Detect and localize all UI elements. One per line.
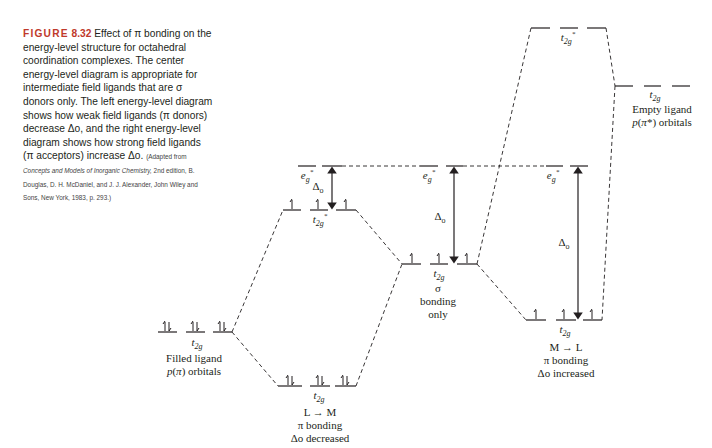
lm-t2g-label: t2g <box>307 389 331 404</box>
lm-t2g-star-label: t2g* <box>308 212 332 228</box>
lm-label: L → M π bonding Δo decreased <box>280 406 360 445</box>
sigma-eg-star-label: eg* <box>419 168 439 184</box>
electron-up <box>437 253 439 263</box>
electron-up <box>562 309 564 319</box>
filled-ligand-label: Filled ligandp(π) orbitals <box>150 352 238 378</box>
ml-eg-star-label: eg* <box>543 168 563 184</box>
electron-up <box>344 199 346 209</box>
paired-electrons-ligand <box>163 321 226 331</box>
sigma-label: σ bonding only <box>400 282 476 321</box>
electron-up <box>316 199 318 209</box>
electron-up <box>590 309 592 319</box>
filled-ligand-t2g-label: t2g <box>185 336 209 351</box>
electron-up <box>534 309 536 319</box>
ml-label: M → L π bonding Δo increased <box>520 341 612 380</box>
sigma-delta-label: Δo <box>430 210 450 225</box>
empty-ligand-t2g-label: t2g <box>643 88 667 103</box>
paired-electrons-lm <box>286 375 349 385</box>
lm-delta-label: Δo <box>308 180 328 195</box>
energy-level-diagram <box>0 0 712 448</box>
sigma-t2g-label: t2g <box>427 267 451 282</box>
electron-up <box>290 199 292 209</box>
ml-delta-label: Δo <box>554 236 574 251</box>
electron-up <box>410 253 412 263</box>
ml-t2g-star-label: t2g* <box>556 30 580 46</box>
ml-t2g-label: t2g <box>553 323 577 338</box>
empty-ligand-label: Empty ligandp(π*) orbitals <box>612 103 712 129</box>
electron-up <box>465 253 467 263</box>
